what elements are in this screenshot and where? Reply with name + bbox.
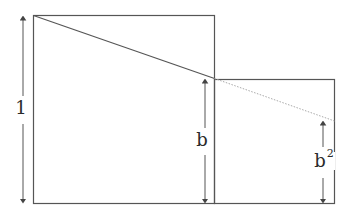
label-side-1: 1 [14,99,28,117]
diagram-canvas [0,0,357,213]
large-square [34,16,215,204]
label-side-b: b [195,131,209,149]
label-b-squared-exponent: 2 [327,147,334,160]
diagonal-line [34,16,215,79]
label-b-squared: b2 [313,152,335,170]
dotted-extension-line [215,79,335,122]
small-square [215,80,335,204]
label-b-squared-base: b [314,150,326,171]
